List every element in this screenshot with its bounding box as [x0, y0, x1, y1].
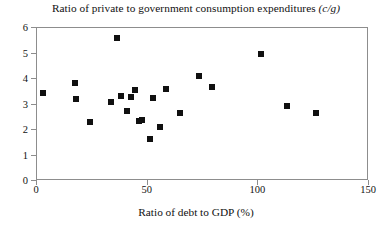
- y-tick-label: 3: [4, 98, 28, 109]
- y-tick-mark: [31, 78, 36, 79]
- data-point: [128, 94, 134, 100]
- x-tick-mark: [36, 180, 37, 185]
- x-tick-label: 100: [237, 184, 277, 195]
- x-tick-label: 150: [348, 184, 388, 195]
- x-axis-label: Ratio of debt to GDP (%): [0, 206, 392, 218]
- data-point: [139, 117, 145, 123]
- data-point: [132, 87, 138, 93]
- plot-area: [36, 27, 368, 180]
- data-point: [313, 110, 319, 116]
- y-tick-label: 4: [4, 73, 28, 84]
- y-tick-label: 5: [4, 47, 28, 58]
- y-tick-mark: [31, 53, 36, 54]
- data-point: [209, 84, 215, 90]
- data-point: [196, 73, 202, 79]
- y-tick-label: 6: [4, 22, 28, 33]
- chart-title-symbol: (c/g): [319, 2, 341, 14]
- data-point: [163, 86, 169, 92]
- data-point: [150, 95, 156, 101]
- data-point: [284, 103, 290, 109]
- data-point: [147, 136, 153, 142]
- data-point: [114, 35, 120, 41]
- y-tick-label: 2: [4, 124, 28, 135]
- y-tick-mark: [31, 155, 36, 156]
- data-point: [124, 108, 130, 114]
- x-tick-label: 50: [127, 184, 167, 195]
- data-point: [40, 90, 46, 96]
- y-tick-mark: [31, 129, 36, 130]
- y-tick-mark: [31, 104, 36, 105]
- scatter-chart-figure: Ratio of private to government consumpti…: [0, 0, 392, 232]
- x-tick-mark: [147, 180, 148, 185]
- data-points-layer: [37, 28, 367, 179]
- chart-title-text: Ratio of private to government consumpti…: [52, 2, 316, 14]
- data-point: [258, 51, 264, 57]
- data-point: [157, 124, 163, 130]
- data-point: [177, 110, 183, 116]
- x-tick-mark: [257, 180, 258, 185]
- data-point: [87, 119, 93, 125]
- data-point: [72, 80, 78, 86]
- y-tick-label: 1: [4, 149, 28, 160]
- data-point: [118, 93, 124, 99]
- chart-title: Ratio of private to government consumpti…: [0, 2, 392, 14]
- x-tick-mark: [368, 180, 369, 185]
- x-tick-label: 0: [16, 184, 56, 195]
- y-tick-mark: [31, 27, 36, 28]
- data-point: [73, 96, 79, 102]
- data-point: [108, 99, 114, 105]
